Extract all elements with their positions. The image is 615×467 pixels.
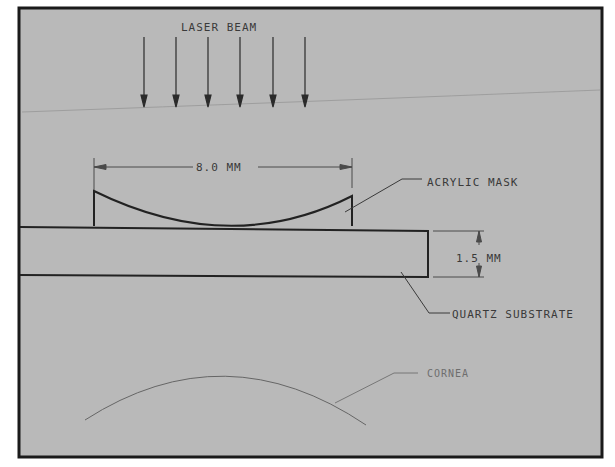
laser-beam-label: LASER BEAM bbox=[181, 21, 257, 34]
cornea-label: CORNEA bbox=[427, 368, 469, 379]
substrate-thickness-label: 1.5 MM bbox=[456, 252, 502, 265]
laser-ablation-diagram: LASER BEAM 8.0 MM ACRYLIC MASK bbox=[0, 0, 615, 467]
diagram-panel bbox=[19, 8, 602, 457]
mask-width-label: 8.0 MM bbox=[196, 161, 242, 174]
acrylic-mask-label: ACRYLIC MASK bbox=[427, 176, 518, 189]
quartz-substrate-label: QUARTZ SUBSTRATE bbox=[452, 308, 574, 321]
